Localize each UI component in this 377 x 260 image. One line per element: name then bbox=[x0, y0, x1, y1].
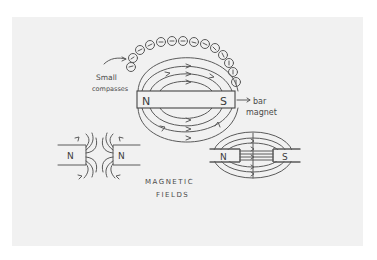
title-line-1: MAGNETIC bbox=[145, 178, 194, 186]
bar-magnet-diagram: N S bbox=[137, 58, 238, 143]
title-line-2: FIELDS bbox=[156, 191, 189, 199]
small-compasses-label: Small compasses bbox=[92, 57, 129, 93]
bar-magnet-label: bar magnet bbox=[237, 97, 277, 117]
bar-magnet-south-label: S bbox=[220, 95, 227, 108]
magnetic-fields-sketch: N S Small compasses bar magnet N bbox=[0, 0, 377, 260]
svg-text:bar: bar bbox=[253, 97, 267, 106]
attracting-magnets-diagram: N S bbox=[210, 132, 300, 178]
bar-magnet-north-label: N bbox=[142, 95, 150, 108]
svg-text:compasses: compasses bbox=[92, 85, 129, 93]
svg-text:magnet: magnet bbox=[246, 108, 277, 117]
attract-north-label: N bbox=[220, 152, 227, 162]
svg-text:Small: Small bbox=[96, 73, 117, 82]
repel-right-north-label: N bbox=[118, 151, 125, 161]
repelling-magnets-diagram: N N bbox=[58, 133, 140, 179]
diagram-title: MAGNETIC FIELDS bbox=[145, 178, 194, 199]
repel-left-north-label: N bbox=[67, 151, 74, 161]
attract-south-label: S bbox=[282, 152, 288, 162]
